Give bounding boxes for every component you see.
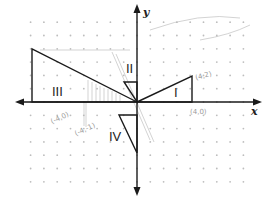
triangle-i	[137, 76, 192, 102]
grid-dot	[163, 114, 165, 116]
grid-dot	[110, 181, 112, 183]
grid-dot	[30, 88, 32, 90]
grid-dot	[96, 128, 98, 130]
grid-dot	[110, 75, 112, 77]
grid-dot	[123, 168, 125, 170]
grid-dot	[30, 114, 32, 116]
grid-dot	[203, 48, 205, 50]
grid-dot	[43, 141, 45, 143]
grid-dot	[229, 114, 231, 116]
grid-dot	[189, 48, 191, 50]
grid-dot	[43, 75, 45, 77]
grid-dot	[56, 141, 58, 143]
grid-dot	[123, 88, 125, 90]
grid-dot	[70, 141, 72, 143]
grid-dot	[56, 21, 58, 23]
grid-dot	[189, 168, 191, 170]
grid-dot	[216, 88, 218, 90]
grid-dot	[243, 154, 245, 156]
grid-dot	[83, 168, 85, 170]
grid-dot	[123, 21, 125, 23]
grid-dot	[30, 181, 32, 183]
grid-dot	[163, 154, 165, 156]
grid-dot	[243, 114, 245, 116]
axes	[22, 10, 256, 190]
grid-dot	[70, 181, 72, 183]
grid-dot	[203, 168, 205, 170]
grid-dot	[176, 48, 178, 50]
grid-dot	[203, 154, 205, 156]
grid-dot	[56, 35, 58, 37]
grid-dot	[216, 141, 218, 143]
grid-dot	[216, 35, 218, 37]
grid-dot	[123, 75, 125, 77]
grid-dot	[96, 154, 98, 156]
grid-dot	[123, 181, 125, 183]
grid-dot	[83, 154, 85, 156]
grid-dot	[83, 35, 85, 37]
grid-dot	[189, 35, 191, 37]
grid-dot	[96, 141, 98, 143]
triangle-i-label: I	[174, 85, 178, 100]
grid-dot	[176, 168, 178, 170]
grid-dot	[96, 168, 98, 170]
grid-dot	[243, 75, 245, 77]
grid-dot	[149, 61, 151, 63]
grid-dot	[149, 35, 151, 37]
grid-dot	[163, 141, 165, 143]
grid-dot	[149, 181, 151, 183]
grid-dot	[110, 35, 112, 37]
grid-dot	[43, 35, 45, 37]
grid-dot	[229, 21, 231, 23]
grid-dot	[83, 181, 85, 183]
grid-dot	[189, 141, 191, 143]
grid-dot	[43, 88, 45, 90]
grid-dot	[149, 141, 151, 143]
grid-dot	[43, 48, 45, 50]
grid-dot	[243, 128, 245, 130]
grid-dot	[96, 181, 98, 183]
grid-dot	[70, 128, 72, 130]
coordinate-diagram: x y I II III IV (4,0) (4,2) (-4,0) (-4,-…	[0, 0, 268, 202]
grid-dot	[189, 88, 191, 90]
grid-dot	[176, 61, 178, 63]
grid-dot	[43, 21, 45, 23]
grid-dot	[229, 48, 231, 50]
grid-dot	[70, 61, 72, 63]
grid-dot	[203, 181, 205, 183]
grid-dot	[229, 75, 231, 77]
grid-dot	[30, 35, 32, 37]
grid-dot	[163, 128, 165, 130]
grid-dot	[176, 114, 178, 116]
grid-dot	[203, 128, 205, 130]
grid-dot	[43, 61, 45, 63]
grid-dot	[30, 154, 32, 156]
grid-dot	[56, 168, 58, 170]
grid-dot	[70, 48, 72, 50]
grid-dot	[70, 35, 72, 37]
grid-dot	[43, 114, 45, 116]
grid-dot	[123, 35, 125, 37]
grid-dot	[30, 128, 32, 130]
grid-dot	[229, 35, 231, 37]
grid-dot	[149, 114, 151, 116]
grid-dot	[83, 48, 85, 50]
grid-dot	[56, 48, 58, 50]
grid-dot	[203, 35, 205, 37]
grid-dot	[96, 61, 98, 63]
grid-dot	[189, 181, 191, 183]
grid-dot	[96, 88, 98, 90]
grid-dot	[229, 141, 231, 143]
grid-dot	[243, 181, 245, 183]
grid-dot	[149, 48, 151, 50]
grid-dot	[110, 48, 112, 50]
grid-dot	[189, 61, 191, 63]
grid-dot	[30, 75, 32, 77]
grid-dot	[163, 181, 165, 183]
grid-dot	[149, 168, 151, 170]
grid-dot	[229, 128, 231, 130]
grid-dot	[123, 141, 125, 143]
pencil-shading	[40, 17, 250, 143]
grid-dot	[243, 48, 245, 50]
grid-dot	[229, 154, 231, 156]
